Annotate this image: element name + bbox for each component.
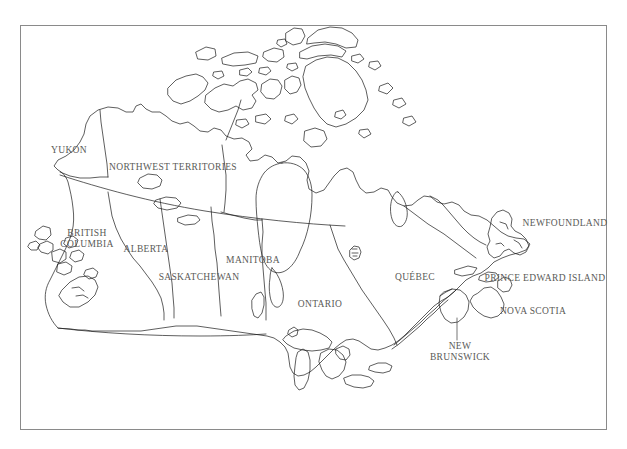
label-northwest-territories: NORTHWEST TERRITORIES [109,162,237,173]
label-manitoba: MANITOBA [226,255,280,266]
label-yukon: YUKON [51,145,87,156]
label-quebec: QUÉBEC [395,272,435,283]
label-nova-scotia: NOVA SCOTIA [500,306,566,317]
label-british-columbia-line1: BRITISH [60,228,113,239]
label-newfoundland: NEWFOUNDLAND [523,218,608,229]
label-new-brunswick: NEW BRUNSWICK [430,341,490,362]
label-ontario: ONTARIO [298,299,342,310]
label-prince-edward-island: PRINCE EDWARD ISLAND [485,273,606,284]
label-new-brunswick-line1: NEW [430,341,490,352]
label-british-columbia: BRITISH COLUMBIA [60,228,113,249]
label-new-brunswick-line2: BRUNSWICK [430,351,490,362]
label-british-columbia-line2: COLUMBIA [60,238,113,249]
label-saskatchewan: SASKATCHEWAN [159,272,240,283]
label-alberta: ALBERTA [124,244,169,255]
canada-map: YUKON NORTHWEST TERRITORIES BRITISH COLU… [0,0,627,449]
